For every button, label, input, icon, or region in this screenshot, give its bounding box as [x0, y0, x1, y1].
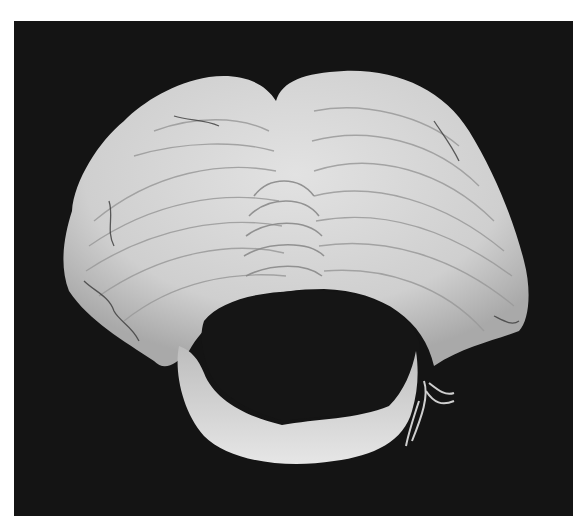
cerebellum-specimen — [14, 21, 573, 516]
specimen-photo — [14, 21, 573, 516]
